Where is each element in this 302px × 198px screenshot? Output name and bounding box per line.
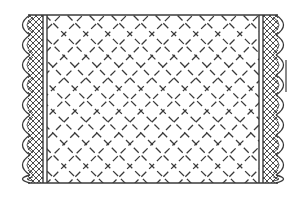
right-crosshatch-band — [0, 0, 302, 198]
left-crosshatch-band — [0, 0, 302, 198]
quilt-lattice — [0, 0, 302, 198]
blanket-illustration — [0, 0, 302, 198]
right-scalloped-edge — [273, 15, 286, 183]
quilted-blanket-drawing — [0, 0, 302, 198]
